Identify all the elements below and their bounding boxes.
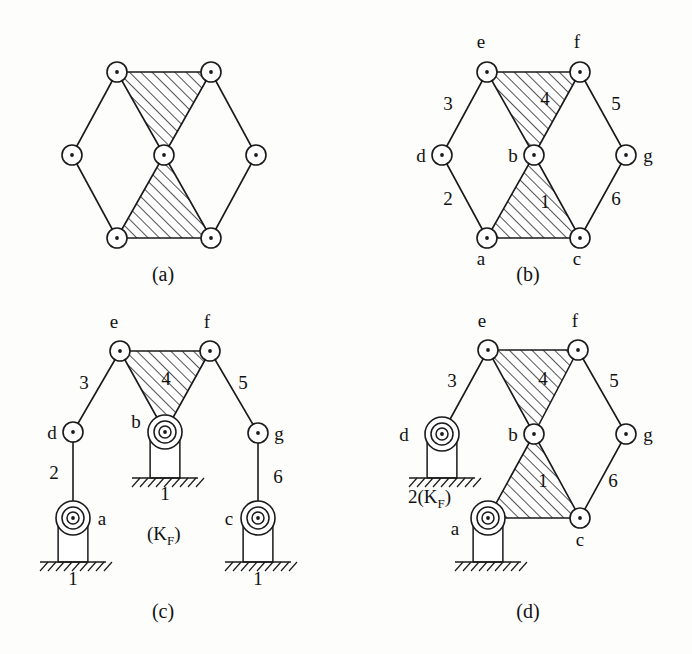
joint-center-dot [486,348,490,352]
ground-hatch-line [503,562,511,571]
label-d-4-3: 4 [538,368,548,389]
binary-link-a-3 [211,155,256,238]
ground-hatch-line [463,562,471,571]
joint-center-dot [532,432,536,436]
joint-a-top-left [107,62,127,82]
ground-hatch-line [48,562,56,571]
kinematic-chain-figure: (a)ef345dbg216ac(b)ef345dbg26ac111(KF)(c… [0,0,692,654]
frame-label-main: (K [147,523,167,545]
label-c-1-14: 1 [253,568,263,589]
joint-center-dot [624,432,628,436]
label-b-f-1: f [574,31,581,52]
label-c-6-9: 6 [273,466,283,487]
label-b-1-9: 1 [540,191,550,212]
ground-hatch-line [473,478,481,487]
label-c-1-12: 1 [160,483,170,504]
ground-hatch-line [455,562,463,571]
joint-d-e [478,340,498,360]
panel-a: (a) [62,62,266,286]
label-c-f-1: f [204,311,211,332]
joint-d-a [471,501,505,535]
joint-center-dot [578,516,582,520]
label-c-a-10: a [98,508,107,529]
panel-caption-c: (c) [152,600,174,623]
ground-hatch-line [487,562,495,571]
binary-link-a-1 [72,155,117,238]
label-b-a-11: a [477,248,486,269]
ternary-link-d-0 [488,350,578,434]
ground-hatch-line [96,562,104,571]
panel-caption-a: (a) [152,263,174,286]
ground-hatch-line [511,562,519,571]
label-b-d-5: d [416,145,426,166]
joint-d-b [524,424,544,444]
joint-center-dot [115,70,119,74]
joint-b-e [477,62,497,82]
ground-hatch-line [188,478,196,487]
ground-hatch-line [172,478,180,487]
ground-hatch-line [495,562,503,571]
label-c-3-2: 3 [79,372,89,393]
ternary-link-b-0 [487,72,580,155]
joint-a-left [62,145,82,165]
ground-hatch-line [265,562,273,571]
joint-a-top-right [201,62,221,82]
label-c-4-3: 4 [161,368,171,389]
ground-hatch-line [104,562,112,571]
frame-label-tail: ) [445,486,451,508]
panel-d: ef345dbg16ac2(KF)(d) [399,310,653,623]
ground-hatch-line [225,562,233,571]
frame-label-d: 2(KF) [408,486,451,511]
joint-b-g [616,145,636,165]
figure-root: (a)ef345dbg216ac(b)ef345dbg26ac111(KF)(c… [0,0,692,654]
frame-label-main: 2(K [408,486,438,508]
ternary-link-b-1 [487,155,580,238]
label-d-a-10: a [451,518,460,539]
label-b-4-3: 4 [540,88,550,109]
frame-label-subscript: F [167,533,174,548]
joint-a-bottom-left [107,228,127,248]
joint-a-bottom-right [201,228,221,248]
ground-hatch-line [180,478,188,487]
joint-b-a [477,228,497,248]
ternary-link-d-1 [488,434,580,518]
ground-hatch-line [471,562,479,571]
ground-hatch-line [140,478,148,487]
joint-b-c [570,228,590,248]
binary-link-a-2 [211,72,256,155]
panel-caption-d: (d) [516,600,539,623]
ground-hatch-line [519,562,527,571]
label-d-c-11: c [576,529,584,550]
joint-a-center [154,145,174,165]
label-c-c-11: c [225,508,233,529]
label-b-2-8: 2 [443,188,453,209]
ground-hatch-line [233,562,241,571]
joint-center-dot [209,70,213,74]
ground-hatch-line [289,562,297,571]
joint-c-d [63,422,83,442]
label-b-3-2: 3 [443,93,453,114]
joint-c-e [110,341,130,361]
joint-center-dot [208,349,212,353]
label-b-6-10: 6 [611,188,621,209]
ground-hatch-line [40,562,48,571]
ground-hatch-line [80,562,88,571]
ground-hatch-line [88,562,96,571]
label-d-3-2: 3 [447,370,457,391]
label-d-6-9: 6 [608,470,618,491]
joint-center-dot [70,153,74,157]
ternary-link-a-1 [117,155,211,238]
label-d-b-6: b [508,424,518,445]
label-d-f-1: f [572,310,579,331]
joint-center-dot [624,153,628,157]
joint-b-f [570,62,590,82]
joint-center-dot [209,236,213,240]
label-c-b-6: b [131,411,141,432]
ground-hatch-line [56,562,64,571]
panel-caption-b: (b) [516,263,539,286]
ground-hatch-line [465,478,473,487]
binary-link-d-2 [580,434,626,518]
joint-center-dot [162,153,166,157]
joint-c-g [248,423,268,443]
label-b-g-7: g [643,145,653,166]
